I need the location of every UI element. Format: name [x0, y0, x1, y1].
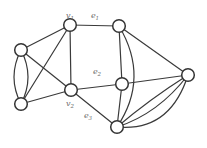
node-left-lower [15, 98, 28, 111]
graph-edge-left-pair-arc-east [21, 50, 28, 104]
node-top-right [113, 20, 126, 33]
graph-edge-e1 [70, 25, 119, 26]
graph-edge-v1-v2 [70, 25, 71, 90]
label-e2: e2 [93, 67, 102, 77]
graph-edge-e3 [71, 90, 117, 127]
graph-edge-top-right-right [119, 26, 188, 75]
label-e1: e1 [91, 11, 99, 21]
label-v2: v2 [66, 99, 75, 109]
graph-edge-top-right-mid-right [119, 26, 122, 84]
graph-figure: v1e1e2v2e3 [0, 0, 207, 148]
label-v1: v1 [66, 11, 74, 21]
graph-canvas: v1e1e2v2e3 [0, 0, 207, 148]
label-e3: e3 [84, 111, 93, 121]
graph-edge-left-upper-v2 [21, 50, 71, 90]
nodes-layer [15, 19, 195, 134]
node-v2 [65, 84, 78, 97]
graph-edge-mid-right-right [122, 75, 188, 84]
node-right [182, 69, 195, 82]
node-bottom [111, 121, 124, 134]
graph-edge-left-pair-arc-west [14, 50, 21, 104]
node-mid-right [116, 78, 129, 91]
node-left-upper [15, 44, 28, 57]
graph-edge-e2 [71, 84, 122, 90]
